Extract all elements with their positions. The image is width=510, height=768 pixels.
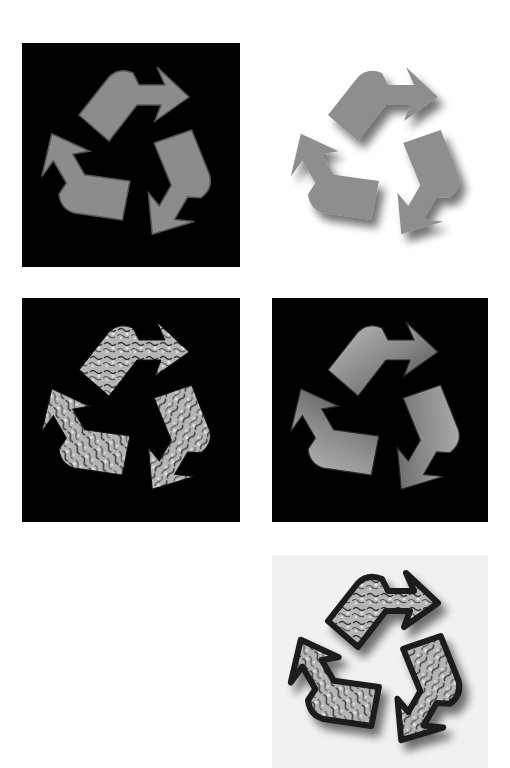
- recycle-panel-framed-texture: [272, 555, 488, 768]
- recycle-panel-flat-gray: [22, 43, 240, 267]
- recycle-panel-drop-shadow: [272, 43, 488, 267]
- recycle-icon: [272, 43, 488, 267]
- recycle-icon: [272, 555, 488, 768]
- recycle-panel-stone-texture: [22, 298, 240, 522]
- recycle-icon: [22, 298, 240, 522]
- recycle-icon: [272, 298, 488, 522]
- recycle-panel-beveled: [272, 298, 488, 522]
- recycle-icon: [22, 43, 240, 267]
